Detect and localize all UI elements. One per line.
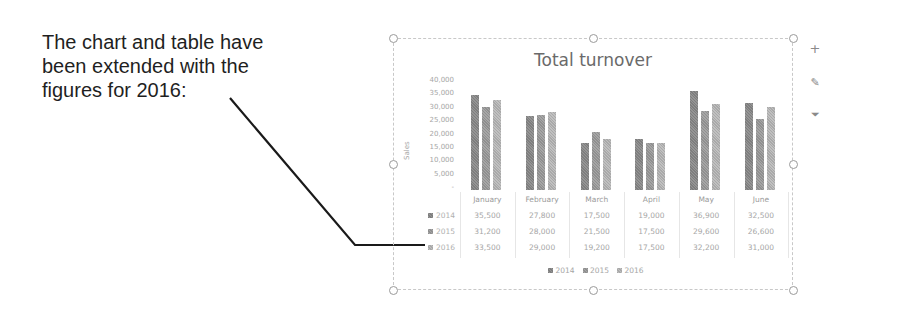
bar-2015-march[interactable] bbox=[592, 132, 600, 190]
bar-2015-april[interactable] bbox=[646, 143, 654, 190]
table-cell: 36,900 bbox=[676, 211, 736, 220]
category-label: January bbox=[457, 195, 517, 204]
table-cell: 29,600 bbox=[676, 227, 736, 236]
table-cell: 31,000 bbox=[731, 243, 791, 252]
y-tick-label: 5,000 bbox=[420, 170, 454, 178]
y-tick-label: 15,000 bbox=[420, 143, 454, 151]
y-tick-label: 20,000 bbox=[420, 130, 454, 138]
bar-2014-january[interactable] bbox=[471, 95, 479, 190]
table-cell: 17,500 bbox=[567, 211, 627, 220]
bar-2016-january[interactable] bbox=[493, 100, 501, 190]
table-cell: 32,200 bbox=[676, 243, 736, 252]
bar-2015-january[interactable] bbox=[482, 107, 490, 190]
table-cell: 17,500 bbox=[621, 243, 681, 252]
table-row-key-2015: 2015 bbox=[428, 227, 455, 236]
table-row-key-2016: 2016 bbox=[428, 243, 455, 252]
legend-key-2014 bbox=[548, 268, 553, 273]
table-cell: 35,500 bbox=[457, 211, 517, 220]
category-label: April bbox=[621, 195, 681, 204]
table-cell: 31,200 bbox=[457, 227, 517, 236]
y-axis-label: Sales bbox=[403, 141, 411, 160]
legend-label-2014: 2014 bbox=[555, 266, 574, 275]
table-cell: 26,600 bbox=[731, 227, 791, 236]
resize-handle-bottom-right[interactable] bbox=[789, 286, 798, 295]
bar-2014-march[interactable] bbox=[581, 143, 589, 190]
bar-2016-april[interactable] bbox=[657, 143, 665, 190]
chart-filters-button[interactable]: ⏷ bbox=[808, 108, 822, 122]
filter-icon: ⏷ bbox=[811, 108, 820, 121]
bar-2016-may[interactable] bbox=[712, 104, 720, 190]
bar-2014-may[interactable] bbox=[690, 91, 698, 190]
legend-label-2016: 2016 bbox=[624, 266, 643, 275]
table-cell: 32,500 bbox=[731, 211, 791, 220]
resize-handle-bottom[interactable] bbox=[589, 286, 598, 295]
plus-icon: + bbox=[810, 41, 821, 56]
y-tick-label: 40,000 bbox=[420, 76, 454, 84]
brush-icon: ✎ bbox=[810, 76, 819, 89]
table-cell: 19,200 bbox=[567, 243, 627, 252]
legend-key-2016 bbox=[617, 268, 622, 273]
bar-2016-march[interactable] bbox=[603, 139, 611, 190]
chart-title: Total turnover bbox=[393, 50, 793, 70]
category-label: February bbox=[512, 195, 572, 204]
category-label: March bbox=[567, 195, 627, 204]
category-label: May bbox=[676, 195, 736, 204]
table-cell: 27,800 bbox=[512, 211, 572, 220]
resize-handle-top-right[interactable] bbox=[789, 34, 798, 43]
table-cell: 17,500 bbox=[621, 227, 681, 236]
resize-handle-bottom-left[interactable] bbox=[389, 286, 398, 295]
legend[interactable]: 2014 2015 2016 bbox=[393, 266, 793, 275]
resize-handle-top-left[interactable] bbox=[389, 34, 398, 43]
y-tick-label: 35,000 bbox=[420, 89, 454, 97]
y-tick-label: - bbox=[420, 183, 454, 191]
table-cell: 19,000 bbox=[621, 211, 681, 220]
y-tick-label: 25,000 bbox=[420, 116, 454, 124]
table-cell: 28,000 bbox=[512, 227, 572, 236]
y-tick-label: 30,000 bbox=[420, 103, 454, 111]
resize-handle-top[interactable] bbox=[589, 34, 598, 43]
bar-2016-february[interactable] bbox=[548, 112, 556, 190]
table-cell: 29,000 bbox=[512, 243, 572, 252]
resize-handle-left[interactable] bbox=[389, 160, 398, 169]
legend-key-icon bbox=[428, 213, 433, 218]
bar-2014-april[interactable] bbox=[635, 139, 643, 190]
legend-label-2015: 2015 bbox=[590, 266, 609, 275]
table-cell: 33,500 bbox=[457, 243, 517, 252]
bar-2014-june[interactable] bbox=[745, 103, 753, 190]
bar-2015-june[interactable] bbox=[756, 119, 764, 190]
legend-key-2015 bbox=[583, 268, 588, 273]
table-cell: 21,500 bbox=[567, 227, 627, 236]
bar-2015-may[interactable] bbox=[701, 111, 709, 190]
table-row-key-2014: 2014 bbox=[428, 211, 455, 220]
legend-key-icon bbox=[428, 245, 433, 250]
chart-styles-button[interactable]: ✎ bbox=[808, 76, 822, 90]
chart-elements-button[interactable]: + bbox=[808, 42, 822, 56]
resize-handle-right[interactable] bbox=[789, 160, 798, 169]
y-tick-label: 10,000 bbox=[420, 156, 454, 164]
bar-2016-june[interactable] bbox=[767, 107, 775, 190]
legend-key-icon bbox=[428, 229, 433, 234]
bar-2015-february[interactable] bbox=[537, 115, 545, 190]
category-label: June bbox=[731, 195, 791, 204]
bar-2014-february[interactable] bbox=[526, 116, 534, 190]
